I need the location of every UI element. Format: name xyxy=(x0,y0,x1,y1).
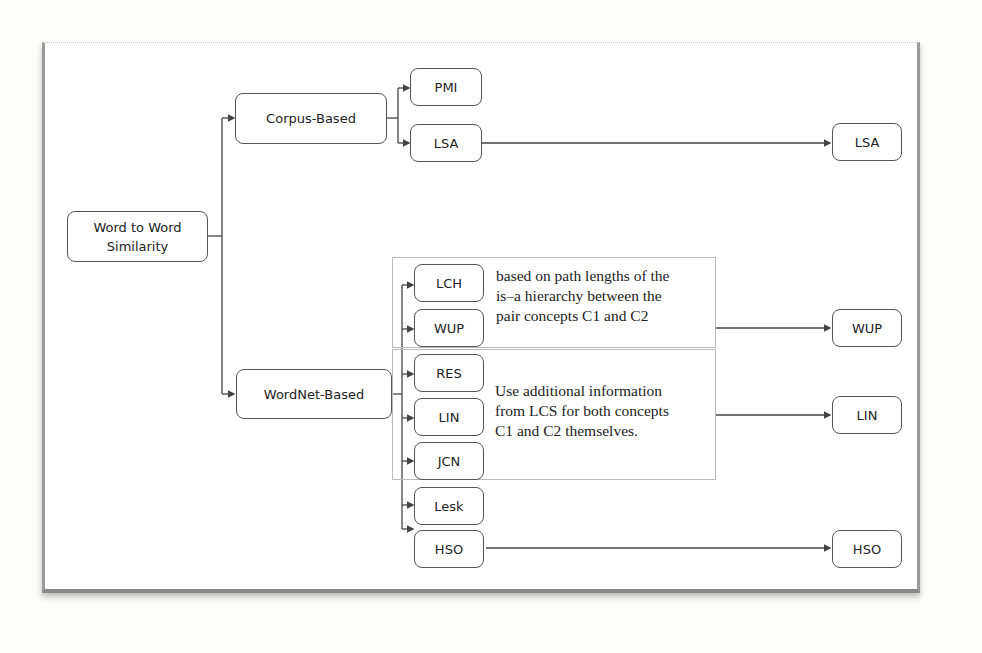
lesk-node: Lesk xyxy=(414,487,484,525)
root-line-2: Similarity xyxy=(107,237,168,256)
wup-node: WUP xyxy=(414,309,484,347)
lin-node: LIN xyxy=(414,398,484,436)
output-hso-node: HSO xyxy=(832,530,902,568)
output-lsa-node: LSA xyxy=(832,123,902,161)
hso-node: HSO xyxy=(414,530,484,568)
pmi-node: PMI xyxy=(410,68,482,106)
output-lin-node: LIN xyxy=(832,396,902,434)
output-wup-node: WUP xyxy=(832,309,902,347)
jcn-node: JCN xyxy=(414,442,484,480)
lsa-node: LSA xyxy=(410,124,482,162)
lch-node: LCH xyxy=(414,264,484,302)
root-line-1: Word to Word xyxy=(93,218,181,237)
root-node: Word to Word Similarity xyxy=(67,211,208,262)
corpus-based-node: Corpus-Based xyxy=(235,93,387,144)
path-based-note: based on path lengths of the is–a hierar… xyxy=(496,266,669,326)
information-content-note: Use additional information from LCS for … xyxy=(495,381,669,441)
res-node: RES xyxy=(414,354,484,392)
wordnet-based-node: WordNet-Based xyxy=(236,369,392,419)
